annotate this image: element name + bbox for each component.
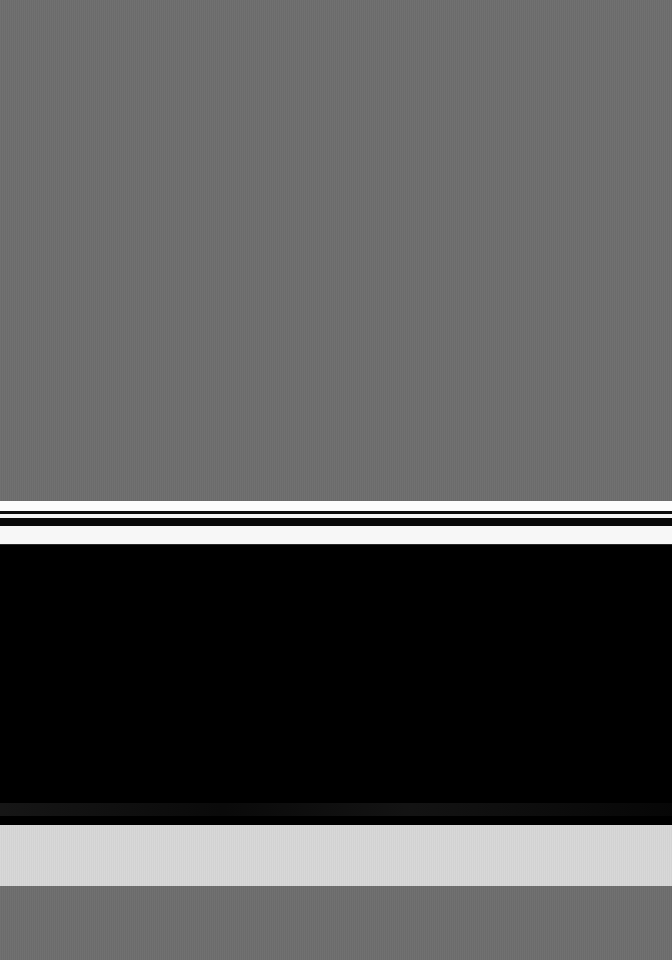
light-band (0, 825, 672, 886)
separator-stripe-dark-b (0, 518, 672, 526)
illegible-text-row (0, 803, 672, 816)
stripe-separator (0, 501, 672, 545)
dimmed-overlay-bottom (0, 886, 672, 960)
dimmed-overlay-top (0, 0, 672, 501)
separator-stripe-white-a (0, 501, 672, 511)
blank-content-panel (0, 545, 672, 825)
screen-capture (0, 0, 672, 960)
separator-stripe-white-c (0, 526, 672, 544)
